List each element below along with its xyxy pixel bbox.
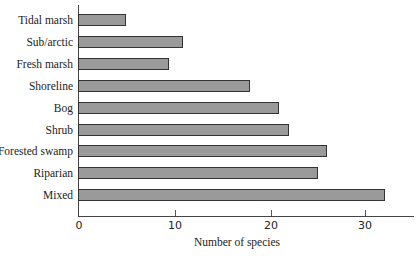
bar — [78, 14, 126, 26]
category-label: Sub/arctic — [0, 36, 73, 49]
x-tick-label: 10 — [160, 219, 190, 232]
category-label: Fresh marsh — [0, 58, 73, 71]
x-tick-30 — [365, 210, 366, 216]
category-label: Forested swamp — [0, 145, 73, 158]
category-label: Bog — [0, 102, 73, 115]
bar — [78, 124, 289, 136]
x-axis-title: Number of species — [187, 236, 287, 248]
bar — [78, 102, 279, 114]
x-tick-label: 20 — [256, 219, 286, 232]
bar — [78, 167, 318, 179]
bar — [78, 36, 183, 48]
category-label: Shoreline — [0, 80, 73, 93]
x-axis — [78, 216, 414, 217]
category-label: Mixed — [0, 189, 73, 202]
bar — [78, 80, 250, 92]
category-label: Riparian — [0, 167, 73, 180]
bar — [78, 189, 385, 201]
horizontal-bar-chart: 0 10 20 30 Tidal marshSub/arcticFresh ma… — [0, 0, 419, 256]
bar — [78, 145, 327, 157]
x-tick-label: 30 — [350, 219, 380, 232]
category-label: Tidal marsh — [0, 14, 73, 27]
x-tick-20 — [271, 210, 272, 216]
category-label: Shrub — [0, 124, 73, 137]
x-tick-10 — [175, 210, 176, 216]
bar — [78, 58, 169, 70]
x-tick-label: 0 — [64, 219, 94, 232]
